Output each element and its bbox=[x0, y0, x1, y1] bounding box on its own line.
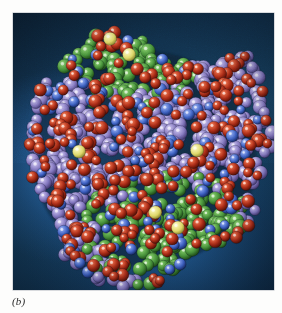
atom-sphere bbox=[220, 106, 229, 115]
atom-sphere bbox=[34, 142, 46, 154]
atom-specular-highlight bbox=[137, 148, 139, 150]
atom-specular-highlight bbox=[47, 141, 49, 143]
atom-specular-highlight bbox=[59, 106, 62, 109]
atom-specular-highlight bbox=[238, 107, 240, 109]
atom-specular-highlight bbox=[222, 171, 224, 173]
atom-specular-highlight bbox=[168, 127, 171, 130]
atom-specular-highlight bbox=[163, 106, 166, 109]
atom-specular-highlight bbox=[196, 174, 199, 177]
atom-specular-highlight bbox=[93, 86, 95, 88]
atom-sphere bbox=[210, 81, 221, 92]
atom-specular-highlight bbox=[146, 156, 149, 159]
atom-sphere bbox=[263, 139, 272, 148]
atom-sphere bbox=[192, 218, 205, 231]
atom-specular-highlight bbox=[87, 113, 90, 116]
atom-specular-highlight bbox=[261, 109, 264, 112]
atom-specular-highlight bbox=[55, 209, 58, 212]
atom-specular-highlight bbox=[95, 274, 98, 277]
atom-specular-highlight bbox=[33, 162, 36, 165]
atom-specular-highlight bbox=[130, 129, 132, 131]
atom-specular-highlight bbox=[66, 56, 69, 59]
atom-specular-highlight bbox=[176, 129, 180, 133]
atom-specular-highlight bbox=[202, 168, 206, 172]
atom-specular-highlight bbox=[64, 236, 66, 238]
atom-specular-highlight bbox=[68, 248, 70, 250]
atom-sphere bbox=[109, 272, 119, 282]
atom-specular-highlight bbox=[61, 62, 64, 65]
atom-specular-highlight bbox=[236, 88, 239, 91]
atom-specular-highlight bbox=[75, 50, 78, 53]
atom-sphere bbox=[232, 200, 242, 210]
atom-specular-highlight bbox=[119, 102, 122, 105]
atom-specular-highlight bbox=[69, 162, 72, 165]
atom-sphere bbox=[58, 85, 68, 95]
atom-specular-highlight bbox=[213, 83, 216, 86]
atom-sphere bbox=[226, 130, 238, 142]
atom-specular-highlight bbox=[153, 80, 156, 83]
atom-specular-highlight bbox=[228, 205, 231, 208]
atom-specular-highlight bbox=[140, 249, 143, 252]
atom-specular-highlight bbox=[222, 179, 224, 181]
atom-specular-highlight bbox=[192, 100, 195, 103]
atom-specular-highlight bbox=[212, 237, 215, 240]
atom-sphere bbox=[220, 89, 233, 102]
atom-specular-highlight bbox=[109, 62, 112, 65]
atom-specular-highlight bbox=[242, 151, 245, 154]
atom-sphere bbox=[185, 194, 196, 205]
atom-sphere bbox=[122, 96, 135, 109]
atom-sphere bbox=[247, 78, 256, 87]
atom-specular-highlight bbox=[125, 71, 128, 74]
atom-specular-highlight bbox=[173, 112, 175, 114]
atom-sphere bbox=[74, 258, 85, 269]
atom-sphere bbox=[95, 121, 108, 134]
atom-sphere bbox=[192, 63, 203, 74]
atom-specular-highlight bbox=[111, 144, 113, 146]
atom-specular-highlight bbox=[193, 206, 196, 209]
atom-sphere bbox=[109, 174, 120, 185]
atom-specular-highlight bbox=[160, 263, 163, 266]
atom-specular-highlight bbox=[227, 55, 229, 57]
atom-specular-highlight bbox=[98, 124, 101, 127]
atom-specular-highlight bbox=[126, 51, 129, 54]
atom-specular-highlight bbox=[71, 72, 74, 75]
atom-sphere bbox=[174, 258, 186, 270]
atom-specular-highlight bbox=[99, 215, 103, 219]
atom-sphere bbox=[206, 173, 216, 183]
figure-root: (b) bbox=[0, 0, 282, 313]
atom-specular-highlight bbox=[245, 197, 248, 200]
atom-specular-highlight bbox=[167, 222, 170, 225]
atom-specular-highlight bbox=[195, 220, 198, 223]
atom-specular-highlight bbox=[86, 124, 88, 126]
atom-specular-highlight bbox=[161, 145, 163, 147]
atom-specular-highlight bbox=[113, 69, 117, 73]
atom-sphere bbox=[141, 107, 153, 119]
atom-sphere bbox=[215, 148, 227, 160]
atom-specular-highlight bbox=[72, 253, 75, 256]
atom-sphere bbox=[149, 116, 162, 129]
atom-specular-highlight bbox=[50, 102, 52, 104]
atom-specular-highlight bbox=[203, 241, 206, 244]
atom-specular-highlight bbox=[262, 149, 265, 152]
atom-sphere bbox=[168, 181, 179, 192]
atom-specular-highlight bbox=[60, 153, 63, 156]
atom-sphere bbox=[72, 145, 85, 158]
atom-sphere bbox=[139, 72, 151, 84]
atom-sphere bbox=[156, 182, 168, 194]
atom-sphere bbox=[191, 239, 201, 249]
atom-specular-highlight bbox=[136, 59, 139, 62]
atom-specular-highlight bbox=[42, 107, 45, 110]
atom-specular-highlight bbox=[94, 158, 96, 160]
atom-specular-highlight bbox=[112, 177, 115, 180]
atom-specular-highlight bbox=[124, 90, 127, 93]
atom-sphere bbox=[106, 243, 116, 253]
atom-specular-highlight bbox=[160, 126, 163, 129]
atom-sphere bbox=[45, 138, 55, 148]
atom-specular-highlight bbox=[120, 193, 123, 196]
atom-sphere bbox=[84, 122, 94, 132]
atom-sphere bbox=[242, 195, 255, 208]
atom-specular-highlight bbox=[152, 170, 155, 173]
atom-specular-highlight bbox=[147, 227, 149, 229]
atom-specular-highlight bbox=[119, 271, 122, 274]
atom-specular-highlight bbox=[234, 202, 236, 204]
atom-specular-highlight bbox=[111, 274, 113, 276]
